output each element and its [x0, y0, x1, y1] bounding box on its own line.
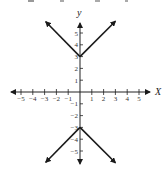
y-tick-label: 1	[75, 77, 79, 85]
x-tick-label: −3	[41, 95, 49, 103]
y-tick-label: 4	[75, 41, 79, 49]
y-tick-label: 5	[75, 30, 79, 38]
x-tick-label: 5	[137, 95, 141, 103]
top-cropped-text	[28, 0, 128, 2]
x-tick-label: −2	[53, 95, 61, 103]
graph: Xy −5−4−3−2−112345−5−4−3−2−112345	[0, 0, 163, 188]
x-tick-label: −4	[29, 95, 37, 103]
x-tick-label: 2	[102, 95, 106, 103]
x-axis-label: X	[154, 86, 162, 97]
x-tick-label: 3	[114, 95, 118, 103]
x-tick-label: 4	[125, 95, 129, 103]
graph-line	[46, 127, 80, 162]
x-tick-label: −5	[17, 95, 25, 103]
y-tick-label: −2	[71, 112, 79, 120]
y-tick-label: −1	[71, 100, 79, 108]
graph-line	[46, 22, 80, 57]
x-tick-label: 1	[90, 95, 94, 103]
y-axis-label: y	[76, 7, 82, 18]
graph-line	[80, 21, 115, 56]
axes: Xy	[11, 7, 162, 164]
y-tick-label: 2	[75, 65, 79, 73]
graph-line	[80, 127, 115, 162]
y-tick-label: −5	[71, 148, 79, 156]
